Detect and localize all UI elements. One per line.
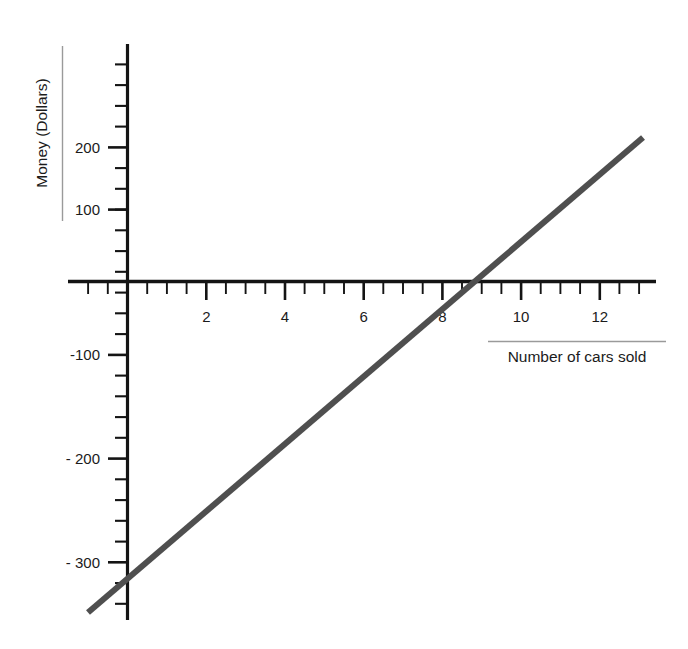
y-tick-label-neg100: -100	[70, 346, 100, 363]
y-tick-label-100: 100	[75, 201, 100, 218]
line-chart: 200 100 -100 - 200 - 300 2 4 6 8 10 12 M…	[0, 0, 688, 649]
x-axis-major-ticks	[128, 283, 600, 300]
x-axis-title: Number of cars sold	[508, 348, 647, 365]
x-tick-label-12: 12	[591, 308, 608, 325]
y-tick-label-200: 200	[75, 139, 100, 156]
y-tick-label-neg200: - 200	[66, 450, 100, 467]
y-axis-minor-ticks	[115, 64, 127, 603]
x-tick-label-10: 10	[513, 308, 530, 325]
y-tick-label-neg300: - 300	[66, 554, 100, 571]
y-axis-title: Money (Dollars)	[33, 78, 50, 187]
x-tick-label-2: 2	[202, 308, 210, 325]
x-tick-label-6: 6	[360, 308, 368, 325]
chart-container: 200 100 -100 - 200 - 300 2 4 6 8 10 12 M…	[0, 0, 688, 649]
x-tick-label-4: 4	[281, 308, 289, 325]
data-series-line	[88, 138, 643, 613]
